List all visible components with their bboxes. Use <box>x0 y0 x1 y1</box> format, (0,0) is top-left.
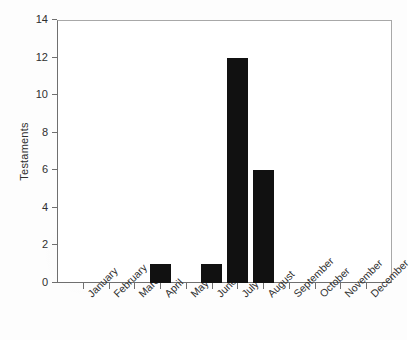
y-tick-mark <box>52 19 57 20</box>
y-tick-mark <box>52 57 57 58</box>
x-tick-mark <box>237 283 238 289</box>
x-tick-mark <box>134 283 135 289</box>
y-tick-mark <box>52 132 57 133</box>
y-axis-title: Testaments <box>14 20 34 283</box>
y-tick-label: 6 <box>42 162 48 177</box>
bar-july <box>227 58 248 283</box>
y-tick-mark <box>52 169 57 170</box>
y-tick-mark <box>52 94 57 95</box>
x-tick-mark <box>83 283 84 289</box>
x-tick-mark <box>212 283 213 289</box>
bar-june <box>201 264 222 283</box>
bar-august <box>253 170 274 283</box>
y-tick-label: 12 <box>36 50 48 65</box>
y-tick-mark <box>52 207 57 208</box>
x-tick-mark <box>340 283 341 289</box>
y-tick-mark <box>52 244 57 245</box>
y-tick-label: 0 <box>42 275 48 290</box>
x-tick-mark <box>263 283 264 289</box>
y-tick-label: 2 <box>42 237 48 252</box>
y-tick-label: 10 <box>36 87 48 102</box>
x-tick-mark <box>315 283 316 289</box>
y-tick-label: 8 <box>42 125 48 140</box>
x-tick-mark <box>366 283 367 289</box>
bar-april <box>150 264 171 283</box>
x-tick-mark <box>186 283 187 289</box>
x-tick-mark <box>289 283 290 289</box>
y-tick-label: 14 <box>36 12 48 27</box>
x-tick-mark <box>109 283 110 289</box>
y-tick-label: 4 <box>42 200 48 215</box>
plot-area <box>57 20 392 283</box>
y-tick-mark <box>52 282 57 283</box>
x-tick-mark <box>160 283 161 289</box>
